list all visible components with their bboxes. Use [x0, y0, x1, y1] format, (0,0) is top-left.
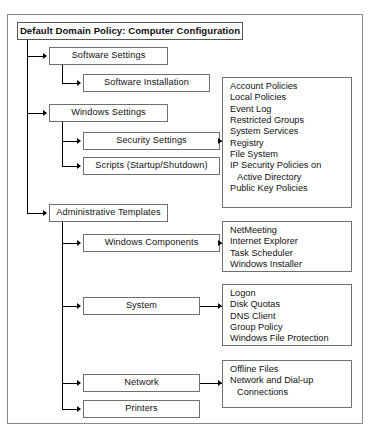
arrowhead-system-icon: [77, 303, 81, 309]
list-item: Registry: [230, 138, 351, 149]
connector-administrative-templates-down: [62, 222, 63, 409]
list-item: Task Scheduler: [230, 248, 351, 259]
node-printers: Printers: [83, 400, 200, 418]
connector-to-administrative-templates: [27, 213, 43, 214]
arrowhead-scripts-icon: [77, 163, 81, 169]
list-item: Public Key Policies: [230, 183, 351, 194]
node-windows-components: Windows Components: [83, 234, 220, 252]
connector-to-windows-components: [62, 243, 77, 244]
connector-to-scripts: [62, 166, 77, 167]
list-system: Logon Disk Quotas DNS Client Group Polic…: [222, 284, 352, 346]
connector-to-software-settings: [27, 56, 43, 57]
connector-to-system: [62, 306, 77, 307]
node-scripts-startup-shutdown: Scripts (Startup/Shutdown): [83, 157, 220, 175]
connector-software-settings-down: [62, 65, 63, 83]
arrowhead-software-settings-icon: [43, 53, 47, 59]
connector-to-software-installation: [62, 83, 77, 84]
list-item: Windows File Protection: [230, 333, 351, 344]
connector-to-network: [62, 383, 77, 384]
node-default-domain-policy: Default Domain Policy: Computer Configur…: [17, 22, 243, 40]
list-item: Restricted Groups: [230, 115, 351, 126]
list-network: Offline Files Network and Dial-up Connec…: [222, 360, 352, 408]
list-item: Active Directory: [230, 172, 351, 183]
list-item: Windows Installer: [230, 259, 351, 270]
node-software-installation: Software Installation: [83, 74, 210, 92]
connector-to-printers: [62, 409, 77, 410]
node-network: Network: [83, 374, 200, 392]
arrowhead-network-icon: [77, 380, 81, 386]
list-item: NetMeeting: [230, 225, 351, 236]
node-security-settings: Security Settings: [83, 132, 220, 150]
list-item: Disk Quotas: [230, 299, 351, 310]
arrowhead-windows-components-list-icon: [218, 240, 222, 246]
arrowhead-administrative-templates-icon: [43, 210, 47, 216]
node-windows-settings: Windows Settings: [49, 104, 168, 122]
list-item: Account Policies: [230, 81, 351, 92]
list-item: System Services: [230, 126, 351, 137]
list-item: Group Policy: [230, 322, 351, 333]
node-software-settings: Software Settings: [49, 47, 168, 65]
arrowhead-windows-components-icon: [77, 240, 81, 246]
list-item: Logon: [230, 288, 351, 299]
list-item: Internet Explorer: [230, 236, 351, 247]
arrowhead-system-list-icon: [218, 303, 222, 309]
node-system: System: [83, 297, 200, 315]
list-item: Connections: [230, 387, 351, 398]
list-item: Event Log: [230, 104, 351, 115]
list-item: DNS Client: [230, 311, 351, 322]
connector-trunk-main: [27, 40, 28, 214]
arrowhead-windows-settings-icon: [43, 110, 47, 116]
list-item: File System: [230, 149, 351, 160]
arrowhead-software-installation-icon: [77, 80, 81, 86]
arrowhead-network-list-icon: [218, 380, 222, 386]
list-item: IP Security Policies on: [230, 160, 351, 171]
connector-windows-settings-down: [62, 122, 63, 167]
list-windows-components: NetMeeting Internet Explorer Task Schedu…: [222, 221, 352, 272]
list-item: Local Policies: [230, 92, 351, 103]
list-item: Network and Dial-up: [230, 375, 351, 386]
arrowhead-security-settings-list-icon: [218, 138, 222, 144]
connector-to-security-settings: [62, 141, 77, 142]
arrowhead-printers-icon: [77, 406, 81, 412]
list-security-settings: Account Policies Local Policies Event Lo…: [222, 77, 352, 208]
diagram-canvas: Default Domain Policy: Computer Configur…: [0, 0, 370, 439]
node-administrative-templates: Administrative Templates: [49, 204, 168, 222]
connector-to-windows-settings: [27, 113, 43, 114]
arrowhead-security-settings-icon: [77, 138, 81, 144]
list-item: Offline Files: [230, 364, 351, 375]
